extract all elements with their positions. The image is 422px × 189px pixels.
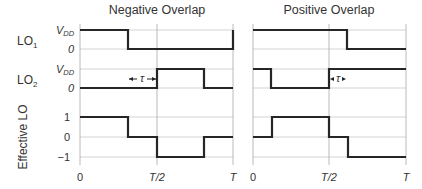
xtick-right-half: T/2	[321, 171, 337, 183]
waveform-neg-lo2	[80, 69, 233, 88]
level-vdd-lo1: VDD	[56, 24, 75, 38]
row-label-lo1: LO1	[17, 34, 38, 50]
xtick-right-0: 0	[250, 171, 256, 183]
level-zero-lo2: 0	[68, 82, 75, 94]
tau-annotation-negative: τ	[129, 72, 156, 84]
row-label-lo2: LO2	[17, 73, 38, 89]
waveform-pos-lo2	[253, 69, 406, 88]
waveform-neg-lo1	[80, 30, 233, 49]
tau-symbol: τ	[140, 72, 145, 84]
row-label-effective-lo: Effective LO	[16, 104, 30, 169]
level-zero-lo1: 0	[68, 43, 75, 55]
panel-title-positive: Positive Overlap	[283, 3, 374, 17]
panel-title-negative: Negative Overlap	[109, 3, 206, 17]
xtick-left-half: T/2	[149, 171, 165, 183]
tau-symbol: τ	[336, 72, 341, 84]
xtick-right-T: T	[403, 171, 411, 183]
waveform-pos-lo1	[253, 30, 406, 49]
level-minus-one: −1	[57, 151, 70, 163]
xtick-left-0: 0	[77, 171, 83, 183]
level-vdd-lo2: VDD	[56, 63, 75, 77]
tau-annotation-positive: τ	[330, 72, 346, 84]
level-zero: 0	[64, 131, 70, 143]
lo-timing-diagram: Negative Overlap Positive Overlap LO1 LO…	[0, 0, 422, 189]
level-one: 1	[64, 111, 70, 123]
xtick-left-T: T	[230, 171, 238, 183]
